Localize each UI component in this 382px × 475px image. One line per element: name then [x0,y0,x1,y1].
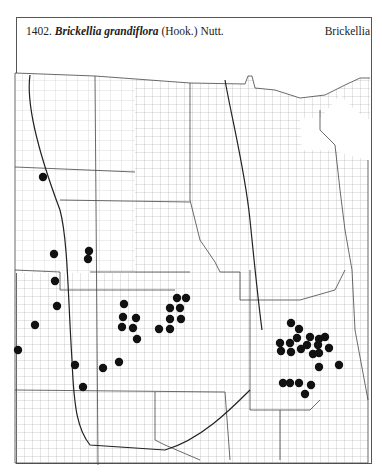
occurrence-dot [297,345,305,353]
occurrence-dot [276,339,284,347]
occurrence-dot [133,335,141,343]
occurrence-dot [132,314,140,322]
occurrence-dot [155,325,163,333]
occurrence-dot [50,250,58,258]
occurrence-dot [295,325,303,333]
occurrence-dot [286,379,294,387]
occurrence-dot [321,333,329,341]
occurrence-dot [301,390,309,398]
occurrence-dot [307,381,315,389]
occurrence-dot [166,315,174,323]
occurrence-dot [119,313,127,321]
occurrence-dot [315,349,323,357]
occurrence-dot [51,277,59,285]
occurrence-dot [39,173,47,181]
occurrence-dot [31,321,39,329]
occurrence-dot [287,348,295,356]
occurrence-dot [277,347,285,355]
occurrence-dot [14,346,22,354]
occurrence-dot [99,364,107,372]
occurrence-dot [71,361,79,369]
occurrence-dot [115,358,123,366]
land-area [15,73,370,463]
occurrence-dot [85,247,93,255]
occurrence-dot [173,294,181,302]
occurrence-dot [176,304,184,312]
occurrence-dot [182,294,190,302]
occurrence-dot [325,344,333,352]
occurrence-dot [306,333,314,341]
occurrence-dot [118,323,126,331]
occurrence-dot [129,324,137,332]
distribution-map [0,0,382,475]
occurrence-dot [79,383,87,391]
occurrence-dot [287,319,295,327]
occurrence-dot [314,341,322,349]
occurrence-dot [315,363,323,371]
occurrence-dot [166,325,174,333]
occurrence-dot [293,334,301,342]
occurrence-dot [53,302,61,310]
occurrence-dot [335,361,343,369]
occurrence-dot [166,304,174,312]
occurrence-dot [120,300,128,308]
occurrence-dot [84,255,92,263]
occurrence-dot [177,315,185,323]
occurrence-dot [295,379,303,387]
occurrence-dot [286,339,294,347]
